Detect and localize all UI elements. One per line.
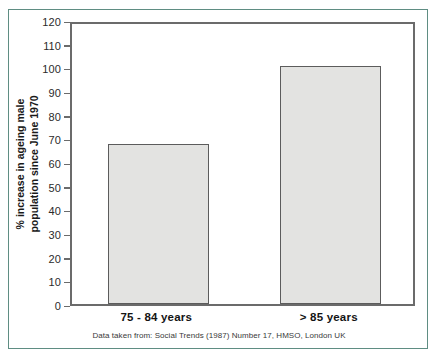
bar [108, 144, 209, 304]
y-axis-tick-label: 120 [42, 14, 61, 30]
y-axis-tick-label: 60 [49, 156, 61, 172]
figure-caption: Data taken from: Social Trends (1987) Nu… [0, 331, 438, 340]
bar-chart-figure: % increase in ageing male population sin… [0, 0, 438, 358]
y-axis-tick-label: 100 [42, 61, 61, 77]
y-axis-tick-label: 110 [43, 38, 61, 54]
y-axis-tick-label: 20 [49, 251, 61, 267]
bar [280, 66, 381, 304]
bars-layer [72, 24, 413, 304]
x-axis-category-label: > 85 years [249, 311, 409, 323]
y-axis-tick-label: 40 [49, 203, 61, 219]
y-axis-tick-label: 30 [49, 227, 61, 243]
plot-area [70, 22, 415, 306]
y-axis-tick-label: 90 [49, 85, 61, 101]
y-axis-tick-label: 50 [49, 180, 61, 196]
y-axis-tick-label: 70 [49, 132, 61, 148]
y-axis-tick-label: 10 [49, 274, 61, 290]
y-axis-tick-label: 0 [55, 298, 61, 314]
y-axis: 0102030405060708090100110120 [0, 0, 70, 340]
x-axis-category-label: 75 - 84 years [76, 311, 236, 323]
y-axis-tick-label: 80 [49, 109, 61, 125]
